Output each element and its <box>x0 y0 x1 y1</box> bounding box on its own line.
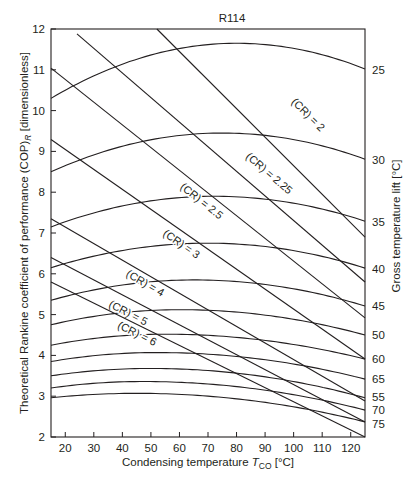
cr-line <box>51 219 365 401</box>
lift-label: 70 <box>372 404 385 416</box>
lift-curve-40 <box>51 243 365 268</box>
y-tick-label: 12 <box>32 23 45 35</box>
x-tick-label: 80 <box>230 442 243 454</box>
y-tick-label: 5 <box>39 309 45 321</box>
x-tick-label: 110 <box>313 442 331 454</box>
y-tick-label: 10 <box>32 105 45 117</box>
lift-curve-50 <box>51 310 365 335</box>
lift-curve-65 <box>51 353 365 380</box>
y-tick-label: 11 <box>33 64 45 76</box>
plot-frame <box>51 29 365 437</box>
lift-label: 30 <box>372 154 385 166</box>
x-tick-label: 50 <box>145 442 158 454</box>
lift-label: 45 <box>372 300 385 312</box>
axis-ticks: 203040506070809010011012023456789101112 <box>32 23 360 454</box>
cr-label: (CR) = 4 <box>124 267 166 298</box>
lift-curve-30 <box>51 133 365 172</box>
y-axis-title: Theoretical Rankine coefficient of perfo… <box>18 52 33 414</box>
lift-label: 55 <box>372 391 385 403</box>
y-tick-label: 9 <box>39 145 45 157</box>
y2-axis-title: Gross temperature lift [°C] <box>390 159 402 292</box>
x-tick-label: 120 <box>341 442 360 454</box>
cr-label: (CR) = 2 <box>289 95 327 133</box>
x-tick-label: 30 <box>87 442 100 454</box>
lift-label: 75 <box>372 418 385 430</box>
plot-curves: 2530354045506065557075(CR) = 2(CR) = 2(C… <box>51 29 385 437</box>
y-tick-label: 6 <box>39 268 45 280</box>
cr-line <box>51 282 365 437</box>
y-tick-label: 8 <box>39 186 45 198</box>
x-tick-label: 40 <box>116 442 129 454</box>
lift-label: 40 <box>372 263 385 275</box>
y-tick-label: 4 <box>39 349 46 361</box>
lift-curve-45 <box>51 280 365 306</box>
lift-label: 25 <box>372 64 385 76</box>
y-tick-label: 3 <box>39 390 45 402</box>
cr-line <box>51 257 365 421</box>
lift-label: 50 <box>372 329 385 341</box>
lift-label: 60 <box>372 353 385 365</box>
cr-line <box>77 34 365 282</box>
x-tick-label: 100 <box>284 442 303 454</box>
y-tick-label: 7 <box>39 227 45 239</box>
x-tick-label: 90 <box>259 442 272 454</box>
cop-chart: R114 2530354045506065557075(CR) = 2(CR) … <box>0 0 415 486</box>
lift-label: 35 <box>372 216 385 228</box>
chart-title: R114 <box>219 12 246 24</box>
lift-label: 65 <box>372 373 385 385</box>
x-axis-title: Condensing temperature TCO [°C] <box>122 456 294 471</box>
x-tick-label: 60 <box>173 442 186 454</box>
cr-line <box>157 29 365 237</box>
cr-line <box>51 140 365 360</box>
x-tick-label: 70 <box>202 442 215 454</box>
cr-label: (CR) = 2.25 <box>244 150 295 196</box>
y-tick-label: 2 <box>39 431 45 443</box>
x-tick-label: 20 <box>59 442 72 454</box>
